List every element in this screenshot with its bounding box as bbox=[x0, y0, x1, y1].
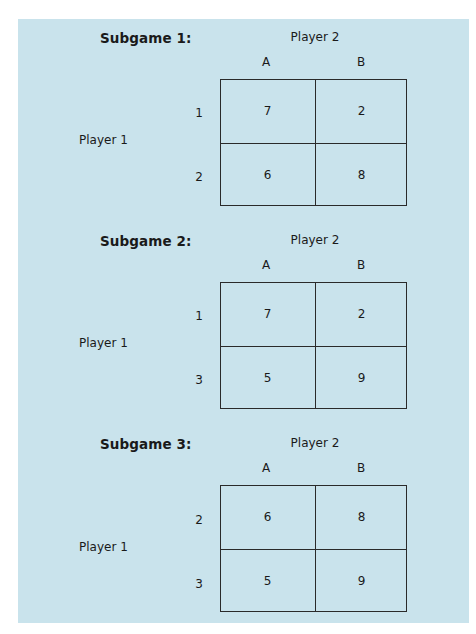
row-header-1: 1 bbox=[193, 106, 205, 120]
payoff-matrix: 7 2 5 9 bbox=[220, 282, 407, 409]
column-player-label: Player 2 bbox=[262, 233, 368, 247]
column-header-a: A bbox=[256, 55, 276, 69]
subgame-2: Subgame 2: Player 2 A B Player 1 1 3 7 2… bbox=[0, 203, 476, 403]
payoff-cell: 7 bbox=[221, 80, 314, 143]
column-header-a: A bbox=[256, 461, 276, 475]
subgame-3: Subgame 3: Player 2 A B Player 1 2 3 6 8… bbox=[0, 406, 476, 606]
payoff-cell: 8 bbox=[315, 486, 408, 549]
payoff-matrix: 7 2 6 8 bbox=[220, 79, 407, 206]
row-header-2: 3 bbox=[193, 373, 205, 387]
payoff-cell: 5 bbox=[221, 347, 314, 410]
payoff-matrix: 6 8 5 9 bbox=[220, 485, 407, 612]
row-player-label: Player 1 bbox=[79, 540, 128, 554]
row-header-2: 2 bbox=[193, 170, 205, 184]
column-header-b: B bbox=[351, 258, 371, 272]
subgame-1: Subgame 1: Player 2 A B Player 1 1 2 7 2… bbox=[0, 0, 476, 200]
subgame-title: Subgame 1: bbox=[100, 30, 192, 46]
row-header-1: 1 bbox=[193, 309, 205, 323]
column-player-label: Player 2 bbox=[262, 436, 368, 450]
payoff-cell: 8 bbox=[315, 144, 408, 207]
payoff-cell: 2 bbox=[315, 80, 408, 143]
payoff-cell: 2 bbox=[315, 283, 408, 346]
row-player-label: Player 1 bbox=[79, 336, 128, 350]
subgame-title: Subgame 2: bbox=[100, 233, 192, 249]
row-player-label: Player 1 bbox=[79, 133, 128, 147]
column-header-b: B bbox=[351, 55, 371, 69]
payoff-cell: 5 bbox=[221, 550, 314, 613]
column-header-a: A bbox=[256, 258, 276, 272]
row-header-2: 3 bbox=[193, 577, 205, 591]
payoff-cell: 6 bbox=[221, 486, 314, 549]
payoff-cell: 9 bbox=[315, 550, 408, 613]
payoff-cell: 6 bbox=[221, 144, 314, 207]
payoff-cell: 7 bbox=[221, 283, 314, 346]
column-player-label: Player 2 bbox=[262, 30, 368, 44]
column-header-b: B bbox=[351, 461, 371, 475]
row-header-1: 2 bbox=[193, 513, 205, 527]
payoff-cell: 9 bbox=[315, 347, 408, 410]
subgame-title: Subgame 3: bbox=[100, 436, 192, 452]
